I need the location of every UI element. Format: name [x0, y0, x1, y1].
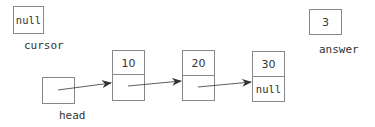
node20-to-node30-arrow	[198, 82, 251, 87]
head-to-node10-arrow	[58, 83, 111, 90]
node10-to-node20-arrow	[128, 81, 181, 86]
pointer-arrows	[0, 0, 375, 127]
